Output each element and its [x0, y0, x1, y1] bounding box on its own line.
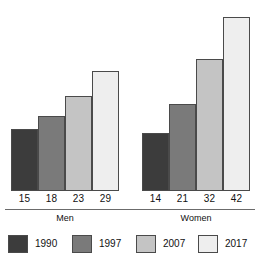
- bar-men-1990: [11, 129, 38, 191]
- bar-group-men: [11, 0, 119, 191]
- bar-women-1997: [169, 104, 196, 191]
- bar-women-2007: [196, 59, 223, 191]
- axis-rule: [5, 209, 255, 210]
- value-label-women-2007: 32: [196, 192, 223, 206]
- value-label-men-1990: 15: [11, 192, 38, 206]
- bar-women-2017: [223, 17, 250, 191]
- group-label-men: Men: [11, 211, 119, 226]
- legend-label-2017: 2017: [225, 235, 247, 253]
- value-label-women-1990: 14: [142, 192, 169, 206]
- plot-area: [0, 0, 260, 191]
- value-label-women-1997: 21: [169, 192, 196, 206]
- chart-legend: 1990 1997 2007 2017: [0, 233, 260, 257]
- value-label-men-1997: 18: [38, 192, 65, 206]
- bar-women-1990: [142, 133, 169, 191]
- bar-group-women: [142, 0, 250, 191]
- value-label-men-2007: 23: [65, 192, 92, 206]
- legend-label-1997: 1997: [99, 235, 121, 253]
- legend-label-1990: 1990: [35, 235, 57, 253]
- group-label-women: Women: [142, 211, 250, 226]
- value-label-women-2017: 42: [223, 192, 250, 206]
- legend-swatch-1990: [8, 235, 28, 253]
- legend-swatch-2017: [198, 235, 218, 253]
- legend-swatch-2007: [136, 235, 156, 253]
- legend-item-1990: 1990: [8, 233, 57, 254]
- value-labels-men: 15 18 23 29: [11, 192, 119, 207]
- grouped-bar-chart: 15 18 23 29 14 21 32 42 Men Women 1990 1…: [0, 0, 260, 263]
- legend-item-2007: 2007: [136, 233, 185, 254]
- value-labels-women: 14 21 32 42: [142, 192, 250, 207]
- group-labels-row: Men Women: [0, 211, 260, 227]
- legend-item-2017: 2017: [198, 233, 247, 254]
- legend-swatch-1997: [72, 235, 92, 253]
- legend-label-2007: 2007: [163, 235, 185, 253]
- value-label-men-2017: 29: [92, 192, 119, 206]
- bar-men-2007: [65, 96, 92, 191]
- bar-men-2017: [92, 71, 119, 191]
- value-labels-row: 15 18 23 29 14 21 32 42: [0, 192, 260, 207]
- legend-item-1997: 1997: [72, 233, 121, 254]
- bar-men-1997: [38, 116, 65, 191]
